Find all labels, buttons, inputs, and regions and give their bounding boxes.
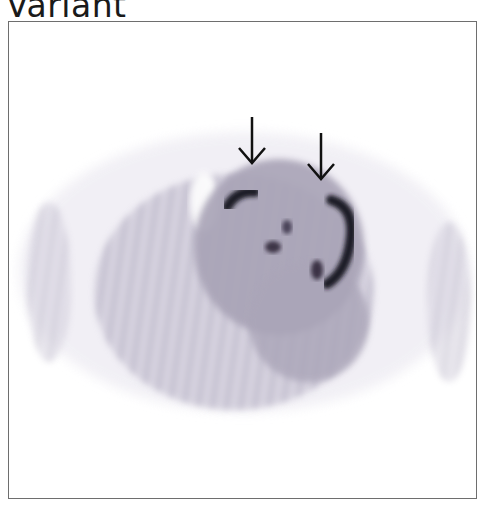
scan-image-frame bbox=[8, 21, 477, 499]
scan-image bbox=[9, 22, 476, 498]
